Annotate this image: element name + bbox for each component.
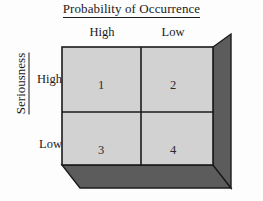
cell-label-4: 4 (163, 143, 183, 157)
cell-label-3: 3 (91, 143, 111, 157)
cell-label-1: 1 (91, 78, 111, 92)
box-bottom-face (62, 165, 231, 188)
risk-matrix-figure: Probability of Occurrence Seriousness Hi… (0, 0, 263, 201)
box-front-face (62, 47, 213, 165)
box-side-face (213, 34, 231, 188)
matrix-box-3d (0, 0, 263, 201)
cell-label-2: 2 (163, 78, 183, 92)
